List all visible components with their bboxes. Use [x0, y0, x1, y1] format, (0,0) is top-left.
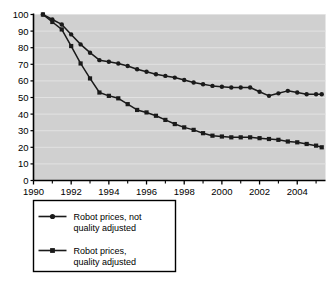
- data-point-square: [257, 136, 261, 140]
- data-point-square: [41, 12, 45, 16]
- data-point-square: [69, 44, 73, 48]
- data-point-square: [135, 108, 139, 112]
- data-point-square: [305, 142, 309, 146]
- x-axis-tick-label: 1990: [23, 186, 44, 197]
- data-point-circle: [135, 67, 139, 71]
- x-axis-tick-label: 2000: [211, 186, 232, 197]
- y-axis-tick-label: 30: [18, 125, 29, 136]
- data-point-circle: [267, 94, 271, 98]
- data-point-square: [126, 102, 130, 106]
- y-axis-tick-label: 80: [18, 42, 29, 53]
- data-point-circle: [163, 74, 167, 78]
- data-point-square: [201, 131, 205, 135]
- legend-label-line2: quality adjusted: [74, 257, 137, 267]
- y-axis-tick-label: 0: [23, 175, 28, 186]
- data-point-circle: [116, 61, 120, 65]
- data-point-square: [88, 76, 92, 80]
- y-axis-tick-label: 100: [13, 9, 29, 20]
- data-point-square: [276, 138, 280, 142]
- x-axis-tick-label: 2004: [287, 186, 308, 197]
- legend-label-line2: quality adjusted: [74, 223, 137, 233]
- data-point-circle: [201, 82, 205, 86]
- data-point-square: [97, 90, 101, 94]
- x-axis-ticks: 19901992199419961998200020022004: [23, 181, 316, 197]
- data-point-square: [267, 137, 271, 141]
- data-point-circle: [173, 75, 177, 79]
- data-point-circle: [286, 89, 290, 93]
- data-point-circle: [60, 22, 64, 26]
- data-point-square: [60, 27, 64, 31]
- x-axis-tick-label: 1994: [98, 186, 119, 197]
- data-point-circle: [220, 85, 224, 89]
- data-point-square: [107, 94, 111, 98]
- legend-label-line1: Robot prices,: [74, 246, 127, 256]
- data-point-square: [210, 134, 214, 138]
- data-point-circle: [97, 58, 101, 62]
- x-axis-tick-label: 1996: [136, 186, 157, 197]
- data-point-square: [229, 135, 233, 139]
- y-axis-tick-label: 20: [18, 142, 29, 153]
- legend-label-line1: Robot prices, not: [74, 212, 143, 222]
- x-axis-tick-label: 2002: [249, 186, 270, 197]
- y-axis-ticks: 0102030405060708090100: [13, 9, 34, 186]
- data-point-circle: [107, 60, 111, 64]
- y-axis-tick-label: 40: [18, 109, 29, 120]
- x-axis-tick-label: 1992: [61, 186, 82, 197]
- data-point-circle: [125, 64, 129, 68]
- data-point-square: [220, 134, 224, 138]
- data-point-square: [239, 135, 243, 139]
- data-point-square: [192, 128, 196, 132]
- data-point-square: [50, 20, 54, 24]
- y-axis-tick-label: 10: [18, 158, 29, 169]
- data-point-square: [286, 139, 290, 143]
- legend-marker-circle: [50, 214, 55, 219]
- chart-legend: Robot prices, notquality adjustedRobot p…: [34, 201, 176, 272]
- data-point-square: [144, 110, 148, 114]
- data-point-circle: [276, 91, 280, 95]
- data-point-square: [295, 140, 299, 144]
- y-axis-tick-label: 90: [18, 26, 29, 37]
- data-point-circle: [144, 70, 148, 74]
- data-point-circle: [295, 90, 299, 94]
- legend-marker-square: [50, 248, 55, 253]
- data-point-circle: [78, 42, 82, 46]
- data-point-circle: [191, 80, 195, 84]
- data-point-square: [182, 125, 186, 129]
- data-point-circle: [314, 92, 318, 96]
- data-point-square: [248, 135, 252, 139]
- data-point-square: [154, 114, 158, 118]
- data-point-square: [320, 145, 324, 149]
- data-point-circle: [257, 89, 261, 93]
- data-point-circle: [320, 92, 324, 96]
- data-point-circle: [69, 32, 73, 36]
- data-point-square: [163, 118, 167, 122]
- data-point-circle: [182, 78, 186, 82]
- data-point-circle: [154, 72, 158, 76]
- data-point-square: [314, 144, 318, 148]
- data-point-circle: [304, 92, 308, 96]
- y-axis-tick-label: 60: [18, 75, 29, 86]
- data-point-circle: [248, 85, 252, 89]
- data-point-circle: [239, 85, 243, 89]
- line-chart: 0102030405060708090100 19901992199419961…: [0, 0, 334, 282]
- y-axis-tick-label: 50: [18, 92, 29, 103]
- data-point-square: [116, 96, 120, 100]
- data-point-square: [173, 122, 177, 126]
- chart-figure: 0102030405060708090100 19901992199419961…: [0, 0, 334, 282]
- y-axis-tick-label: 70: [18, 59, 29, 70]
- x-axis-tick-label: 1998: [174, 186, 195, 197]
- data-point-circle: [88, 50, 92, 54]
- data-point-circle: [229, 85, 233, 89]
- data-point-square: [78, 61, 82, 65]
- data-point-circle: [210, 84, 214, 88]
